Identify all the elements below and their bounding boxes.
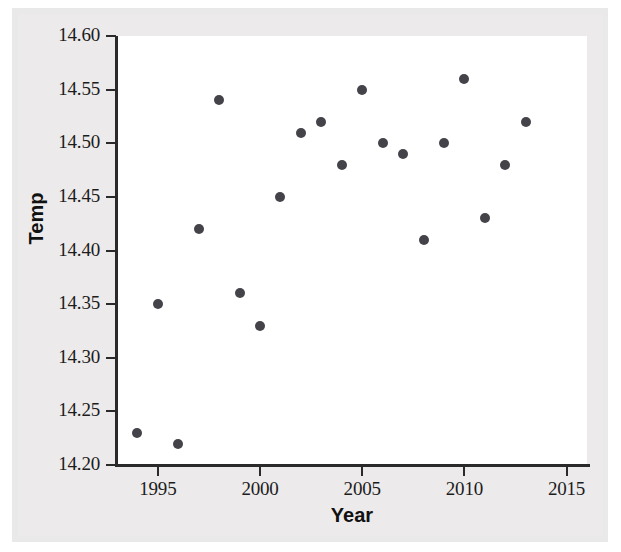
data-point	[255, 321, 265, 331]
data-point	[173, 439, 183, 449]
y-axis-tick	[106, 196, 116, 198]
data-point	[337, 160, 347, 170]
y-axis-tick-label: 14.30	[8, 346, 100, 368]
y-axis-tick	[106, 250, 116, 252]
x-axis-tick	[259, 466, 261, 476]
x-axis-tick-label: 2010	[424, 478, 504, 500]
y-axis-tick	[106, 142, 116, 144]
x-axis-tick	[157, 466, 159, 476]
y-axis-tick-label: 14.55	[8, 78, 100, 100]
data-point	[296, 128, 306, 138]
y-axis-tick-label: 14.60	[8, 24, 100, 46]
x-axis-tick-label: 1995	[118, 478, 198, 500]
y-axis-tick	[106, 464, 116, 466]
plot-canvas	[117, 36, 587, 465]
data-point	[500, 160, 510, 170]
data-point	[194, 224, 204, 234]
y-axis-tick	[106, 357, 116, 359]
data-point	[378, 138, 388, 148]
x-axis-tick-label: 2005	[322, 478, 402, 500]
data-point	[153, 299, 163, 309]
y-axis-tick-label: 14.25	[8, 399, 100, 421]
y-axis-tick	[106, 35, 116, 37]
x-axis-line	[115, 464, 590, 467]
x-axis-tick-label: 2000	[220, 478, 300, 500]
y-axis-title: Temp	[25, 193, 48, 245]
y-axis-tick-label: 14.40	[8, 239, 100, 261]
data-point	[419, 235, 429, 245]
x-axis-tick	[566, 466, 568, 476]
data-point	[398, 149, 408, 159]
y-axis-tick	[106, 410, 116, 412]
x-axis-tick-label: 2015	[527, 478, 607, 500]
y-axis-line	[115, 36, 118, 467]
y-axis-tick	[106, 89, 116, 91]
data-point	[357, 85, 367, 95]
y-axis-tick-label: 14.35	[8, 292, 100, 314]
x-axis-tick	[463, 466, 465, 476]
scatter-plot-figure: 14.2014.2514.3014.3514.4014.4514.5014.55…	[0, 0, 621, 552]
x-axis-title: Year	[117, 504, 587, 527]
data-point	[235, 288, 245, 298]
data-point	[521, 117, 531, 127]
y-axis-tick-label: 14.20	[8, 453, 100, 475]
y-axis-tick-label: 14.45	[8, 185, 100, 207]
y-axis-tick-label: 14.50	[8, 131, 100, 153]
y-axis-tick	[106, 303, 116, 305]
x-axis-tick	[361, 466, 363, 476]
